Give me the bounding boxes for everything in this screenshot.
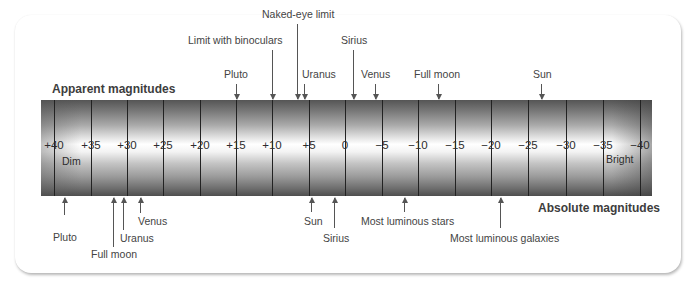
apparent-object-label: Sun — [533, 68, 552, 80]
arrow-down-icon — [236, 84, 237, 99]
arrow-up-icon — [500, 198, 501, 228]
absolute-object-label: Sirius — [323, 232, 349, 244]
absolute-object-label: Most luminous galaxies — [450, 232, 559, 244]
tick-label: +30 — [117, 139, 137, 151]
absolute-object-label: Uranus — [120, 232, 154, 244]
absolute-object-label: Pluto — [53, 231, 77, 243]
arrow-up-icon — [113, 198, 114, 247]
arrow-up-icon — [64, 198, 65, 215]
arrow-down-icon — [272, 50, 273, 99]
tick-label: +40 — [44, 139, 64, 151]
tick-label: −15 — [445, 139, 465, 151]
arrow-down-icon — [541, 84, 542, 99]
tick-label: −40 — [630, 139, 650, 151]
arrow-up-icon — [123, 198, 124, 230]
absolute-magnitudes-title: Absolute magnitudes — [538, 201, 660, 215]
arrow-down-icon — [297, 24, 298, 99]
bright-label: Bright — [606, 153, 633, 165]
tick-label: +5 — [302, 139, 315, 151]
apparent-object-label: Pluto — [224, 68, 248, 80]
tick-label: +35 — [81, 139, 101, 151]
absolute-object-label: Full moon — [91, 248, 137, 260]
arrow-down-icon — [375, 84, 376, 99]
tick-label: +20 — [190, 139, 210, 151]
arrow-up-icon — [311, 198, 312, 212]
arrow-down-icon — [353, 50, 354, 99]
arrow-up-icon — [140, 198, 141, 213]
arrow-down-icon — [304, 84, 305, 99]
apparent-magnitudes-title: Apparent magnitudes — [52, 82, 175, 96]
apparent-object-label: Venus — [361, 68, 390, 80]
apparent-object-label: Uranus — [302, 68, 336, 80]
tick-label: +15 — [226, 139, 246, 151]
tick-label: −35 — [593, 139, 613, 151]
tick-label: −10 — [408, 139, 428, 151]
arrow-up-icon — [404, 198, 405, 212]
arrow-down-icon — [438, 84, 439, 99]
apparent-object-label: Limit with binoculars — [188, 34, 283, 46]
apparent-object-label: Full moon — [414, 68, 460, 80]
dim-label: Dim — [62, 155, 81, 167]
apparent-object-label: Naked-eye limit — [262, 8, 334, 20]
apparent-object-label: Sirius — [341, 34, 367, 46]
tick-label: −5 — [375, 139, 388, 151]
absolute-object-label: Venus — [138, 215, 167, 227]
arrow-up-icon — [334, 198, 335, 228]
tick-label: 0 — [342, 139, 348, 151]
tick-label: −20 — [481, 139, 501, 151]
tick-label: −30 — [556, 139, 576, 151]
tick-label: +10 — [262, 139, 282, 151]
tick-label: +25 — [153, 139, 173, 151]
tick-label: −25 — [518, 139, 538, 151]
absolute-object-label: Most luminous stars — [361, 215, 454, 227]
absolute-object-label: Sun — [304, 215, 323, 227]
